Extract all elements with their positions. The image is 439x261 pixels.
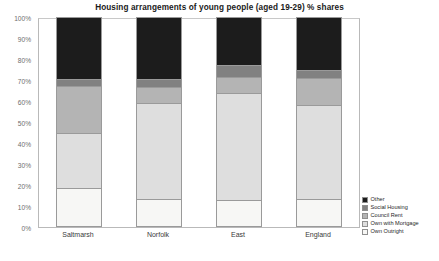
y-axis-tick-label: 70% (18, 78, 31, 85)
chart-container: Housing arrangements of young people (ag… (0, 0, 439, 261)
y-axis-tick-label: 40% (18, 141, 31, 148)
bar-segment[interactable] (296, 70, 342, 78)
x-axis-labels: SaltmarshNorfolkEastEngland (38, 231, 360, 245)
bars-layer (39, 19, 359, 227)
chart-legend: OtherSocial HousingCouncil RentOwn with … (362, 196, 438, 236)
bar-segment[interactable] (216, 200, 262, 227)
y-axis-tick-label: 0% (21, 225, 31, 232)
bar-segment[interactable] (56, 188, 102, 227)
legend-swatch-icon (362, 205, 368, 211)
bar-segment[interactable] (296, 199, 342, 227)
x-axis-tick-label: Saltmarsh (62, 231, 94, 238)
legend-item[interactable]: Own Outright (362, 228, 438, 235)
bar-segment[interactable] (136, 17, 182, 79)
legend-swatch-icon (362, 229, 368, 235)
bar-segment[interactable] (296, 105, 342, 198)
bar-segment[interactable] (56, 133, 102, 189)
legend-swatch-icon (362, 221, 368, 227)
bar-segment[interactable] (216, 17, 262, 65)
legend-item-label: Other (371, 197, 385, 203)
y-axis-tick-label: 80% (18, 57, 31, 64)
y-axis-tick-label: 30% (18, 162, 31, 169)
legend-item-label: Own with Mortgage (371, 221, 419, 227)
y-axis-tick-label: 50% (18, 120, 31, 127)
stacked-bar[interactable] (296, 19, 342, 227)
bar-segment[interactable] (216, 77, 262, 93)
legend-swatch-icon (362, 213, 368, 219)
x-axis-tick-label: East (231, 231, 245, 238)
y-axis-tick-label: 20% (18, 183, 31, 190)
stacked-bar[interactable] (136, 19, 182, 227)
y-axis-labels: 0%10%20%30%40%50%60%70%80%90%100% (0, 18, 34, 228)
plot-area (38, 18, 360, 228)
bar-segment[interactable] (56, 86, 102, 132)
bar-segment[interactable] (296, 17, 342, 70)
y-axis-tick-label: 10% (18, 204, 31, 211)
stacked-bar[interactable] (216, 19, 262, 227)
bar-segment[interactable] (296, 78, 342, 105)
bar-segment[interactable] (136, 199, 182, 227)
x-axis-tick-label: England (305, 231, 331, 238)
y-axis-tick-label: 100% (14, 15, 31, 22)
legend-item-label: Social Housing (371, 205, 408, 211)
legend-item[interactable]: Social Housing (362, 204, 438, 211)
bar-segment[interactable] (216, 65, 262, 77)
stacked-bar[interactable] (56, 19, 102, 227)
bar-segment[interactable] (136, 103, 182, 199)
bar-segment[interactable] (56, 17, 102, 79)
bar-segment[interactable] (136, 79, 182, 87)
legend-item[interactable]: Other (362, 196, 438, 203)
x-axis-tick-label: Norfolk (147, 231, 169, 238)
bar-segment[interactable] (56, 79, 102, 86)
legend-item[interactable]: Council Rent (362, 212, 438, 219)
legend-item-label: Council Rent (371, 213, 403, 219)
legend-item[interactable]: Own with Mortgage (362, 220, 438, 227)
bar-segment[interactable] (136, 87, 182, 103)
chart-title: Housing arrangements of young people (ag… (0, 3, 439, 12)
y-axis-tick-label: 90% (18, 36, 31, 43)
y-axis-tick-label: 60% (18, 99, 31, 106)
legend-item-label: Own Outright (371, 229, 404, 235)
legend-swatch-icon (362, 197, 368, 203)
bar-segment[interactable] (216, 93, 262, 200)
